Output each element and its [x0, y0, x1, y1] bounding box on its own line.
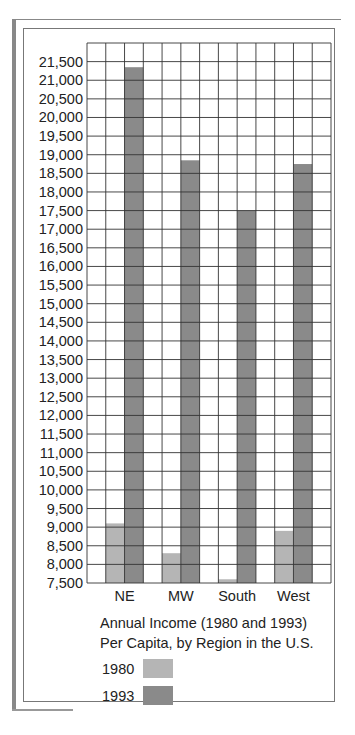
- y-tick-label: 13,500: [39, 352, 83, 368]
- x-tick-label: West: [277, 588, 310, 604]
- legend-item-1980: 1980: [102, 659, 173, 678]
- y-tick-label: 15,000: [39, 296, 83, 312]
- bar-west-1980: [275, 531, 294, 583]
- y-tick-label: 13,000: [39, 370, 83, 386]
- legend-label-1993: 1993: [102, 688, 134, 704]
- y-tick-label: 19,000: [39, 147, 83, 163]
- legend-item-1993: 1993: [102, 686, 173, 705]
- bar-south-1980: [218, 579, 237, 583]
- legend-swatch-1993: [143, 686, 173, 705]
- x-tick-label: MW: [168, 588, 194, 604]
- caption-line-1: Annual Income (1980 and 1993): [100, 613, 314, 633]
- y-tick-label: 18,500: [39, 165, 83, 181]
- y-tick-label: 8,000: [47, 556, 83, 572]
- y-tick-label: 9,000: [47, 519, 83, 535]
- bar-west-1993: [293, 164, 312, 583]
- y-tick-label: 21,000: [39, 72, 83, 88]
- bar-ne-1993: [125, 67, 144, 583]
- y-tick-label: 16,500: [39, 240, 83, 256]
- caption-line-2: Per Capita, by Region in the U.S.: [100, 633, 314, 653]
- y-tick-label: 19,500: [39, 128, 83, 144]
- y-tick-label: 9,500: [47, 501, 83, 517]
- y-tick-label: 8,500: [47, 538, 83, 554]
- y-tick-label: 10,500: [39, 463, 83, 479]
- y-tick-label: 18,000: [39, 184, 83, 200]
- bar-mw-1993: [181, 160, 200, 583]
- y-tick-label: 15,500: [39, 277, 83, 293]
- y-tick-label: 17,000: [39, 221, 83, 237]
- y-tick-label: 11,000: [40, 445, 83, 461]
- bar-ne-1980: [106, 523, 125, 583]
- y-tick-label: 10,000: [39, 482, 83, 498]
- legend-swatch-1980: [143, 659, 173, 678]
- y-tick-label: 20,000: [39, 109, 83, 125]
- y-tick-label: 14,500: [39, 314, 83, 330]
- y-tick-label: 20,500: [39, 91, 83, 107]
- y-tick-label: 12,000: [39, 407, 83, 423]
- y-tick-label: 14,000: [39, 333, 83, 349]
- y-tick-label: 7,500: [47, 575, 83, 591]
- y-tick-label: 12,500: [39, 389, 83, 405]
- legend-label-1980: 1980: [102, 661, 134, 677]
- y-tick-label: 11,500: [40, 426, 83, 442]
- x-tick-label: NE: [114, 588, 134, 604]
- chart-caption: Annual Income (1980 and 1993) Per Capita…: [100, 613, 314, 653]
- y-tick-label: 21,500: [39, 54, 83, 70]
- y-tick-label: 17,500: [39, 203, 83, 219]
- y-tick-label: 16,000: [39, 258, 83, 274]
- x-tick-label: South: [218, 588, 256, 604]
- bar-mw-1980: [162, 553, 181, 583]
